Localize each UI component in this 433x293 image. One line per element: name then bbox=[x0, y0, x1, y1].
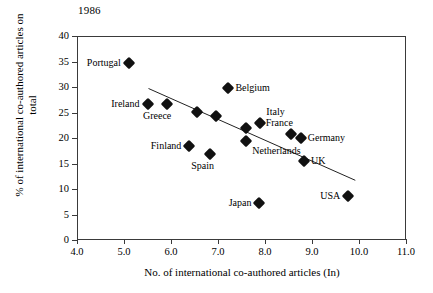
data-point-label: Greece bbox=[143, 111, 171, 121]
x-axis-tick-label: 5.0 bbox=[117, 246, 130, 257]
data-point-label: USA bbox=[320, 191, 340, 201]
x-axis-tick-label: 4.0 bbox=[70, 246, 83, 257]
chart-figure: 1986 0510152025303540 4.05.06.07.08.09.0… bbox=[0, 0, 433, 293]
plot-inner: PortugalIrelandGreeceBelgiumItalyFranceG… bbox=[78, 37, 405, 239]
y-axis-tick-label: 0 bbox=[64, 235, 69, 245]
data-point-label: Belgium bbox=[235, 83, 269, 93]
x-axis-tick bbox=[406, 239, 407, 244]
x-axis-tick-label: 10.0 bbox=[350, 246, 368, 257]
y-axis-tick-label: 25 bbox=[59, 108, 70, 118]
data-point-label: France bbox=[266, 118, 293, 128]
data-point-label: Portugal bbox=[87, 58, 121, 68]
data-point-label: Netherlands bbox=[252, 146, 300, 156]
data-point-label: Italy bbox=[266, 107, 284, 117]
data-point-label: Ireland bbox=[111, 99, 139, 109]
data-point-label: Germany bbox=[308, 133, 345, 143]
x-axis-tick-label: 6.0 bbox=[164, 246, 177, 257]
data-point-label: Spain bbox=[191, 161, 214, 171]
y-axis-tick-label: 5 bbox=[64, 210, 69, 220]
data-point-label: Japan bbox=[229, 198, 252, 208]
x-axis-tick-label: 9.0 bbox=[305, 246, 318, 257]
y-axis-tick-label: 35 bbox=[59, 57, 70, 67]
x-axis-tick-label: 8.0 bbox=[258, 246, 271, 257]
y-axis-tick-label: 10 bbox=[59, 184, 70, 194]
y-axis-tick-label: 30 bbox=[59, 82, 70, 92]
y-axis-tick-label: 40 bbox=[59, 31, 70, 41]
y-axis-tick-label: 20 bbox=[59, 133, 70, 143]
data-point-label: UK bbox=[311, 156, 325, 166]
data-point-label: Finland bbox=[151, 141, 182, 151]
y-axis-title: % of international co-authored articles … bbox=[13, 3, 39, 207]
x-axis-tick-label: 11.0 bbox=[397, 246, 415, 257]
chart-title: 1986 bbox=[78, 4, 101, 16]
x-axis-tick-label: 7.0 bbox=[211, 246, 224, 257]
plot-area: PortugalIrelandGreeceBelgiumItalyFranceG… bbox=[77, 36, 406, 240]
y-axis-tick-label: 15 bbox=[59, 159, 70, 169]
x-axis-title: No. of international co-authored article… bbox=[77, 266, 407, 278]
